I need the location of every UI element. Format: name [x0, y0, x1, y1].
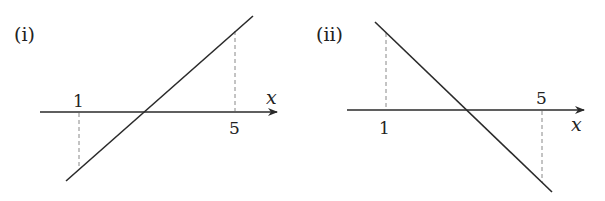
tick-label-5: 5: [536, 88, 547, 108]
panel-label: (i): [14, 23, 35, 45]
tick-label-1: 1: [379, 118, 390, 138]
tick-label-5: 5: [229, 118, 240, 138]
diagram-canvas: (i) x 1 5 (ii) x 1 5: [0, 0, 605, 201]
function-line: [66, 16, 253, 181]
tick-label-1: 1: [73, 91, 84, 111]
axis-label: x: [266, 86, 277, 108]
panel-label: (ii): [316, 23, 343, 45]
function-line: [375, 22, 552, 192]
panel-ii: (ii) x 1 5: [316, 22, 584, 192]
axis-label: x: [571, 113, 582, 135]
panel-i: (i) x 1 5: [14, 16, 277, 181]
